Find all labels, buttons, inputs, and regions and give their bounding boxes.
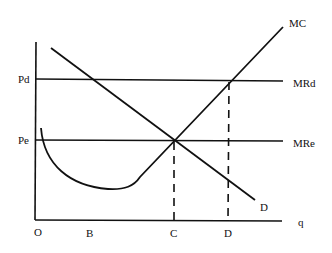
axes [35,42,282,221]
x-axis [35,220,282,221]
mc-label: MC [289,17,306,29]
quantity-label-b: B [86,227,93,239]
mre-label: MRe [293,137,315,149]
mc-curve [41,27,283,189]
mrd-line [36,79,283,81]
mre-line [35,140,283,141]
price-label-pd: Pd [18,73,30,85]
quantity-label-c: C [170,227,177,239]
demand-label: D [260,201,268,213]
demand-curve [51,48,255,200]
origin-label: O [34,226,42,238]
dashed-guides [174,82,229,220]
x-axis-label-q: q [298,216,304,228]
quantity-label-d: D [224,227,232,239]
y-axis [35,42,36,220]
dashed-line-d [228,82,229,220]
marginal-revenue-lines [35,79,283,141]
mrd-label: MRd [293,77,316,89]
price-label-pe: Pe [18,134,29,146]
price-discrimination-diagram: Pd Pe MC MRd MRe D q O B C D [0,0,332,253]
